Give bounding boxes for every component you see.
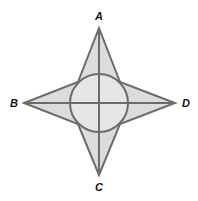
vertex-label-c: C: [95, 181, 104, 193]
vertex-label-b: B: [10, 97, 18, 109]
star-diagram: A B C D: [0, 0, 198, 201]
vertex-label-a: A: [94, 10, 103, 22]
vertex-label-d: D: [182, 97, 190, 109]
